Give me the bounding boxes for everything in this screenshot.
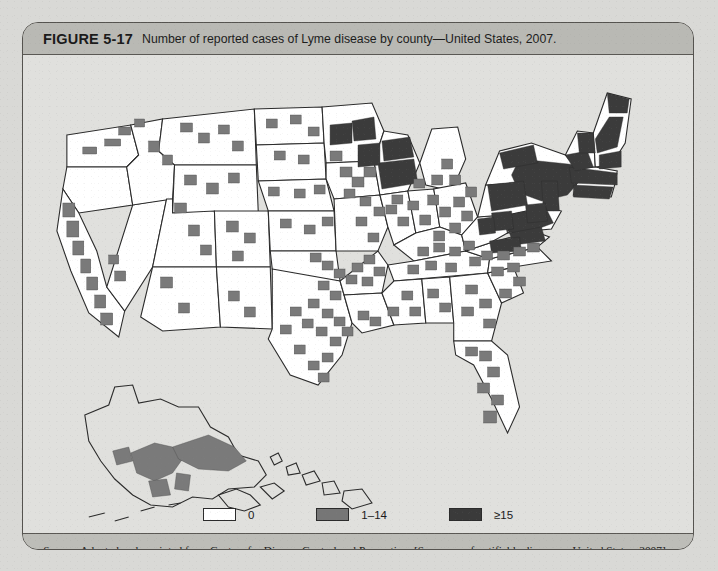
figure-title-band: FIGURE 5-17 Number of reported cases of …: [23, 23, 693, 55]
us-county-choropleth-map: .st { fill:#ffffff; stroke:#2b2b2b; stro…: [23, 55, 693, 533]
source-line-1: Adapted and reprinted from Centers for D…: [43, 544, 669, 550]
legend-swatch-high: [449, 508, 482, 521]
figure-screenshot: FIGURE 5-17 Number of reported cases of …: [0, 0, 718, 571]
figure-source-band: Source: Adapted and reprinted from Cente…: [23, 533, 693, 549]
map-legend: 0 1–14 ≥15: [23, 508, 693, 521]
legend-label-high: ≥15: [494, 509, 513, 521]
legend-item-high: ≥15: [449, 508, 513, 521]
legend-swatch-low: [316, 508, 349, 521]
figure-source-text: Source: Adapted and reprinted from Cente…: [43, 543, 673, 550]
legend-item-low: 1–14: [316, 508, 387, 521]
legend-item-zero: 0: [203, 508, 254, 521]
legend-label-zero: 0: [248, 509, 254, 521]
map-stage: .st { fill:#ffffff; stroke:#2b2b2b; stro…: [23, 55, 693, 533]
source-label: Source:: [43, 544, 78, 550]
map-panel: .st { fill:#ffffff; stroke:#2b2b2b; stro…: [23, 55, 693, 533]
legend-label-low: 1–14: [361, 509, 387, 521]
figure-number-label: FIGURE 5-17: [43, 31, 133, 47]
legend-swatch-zero: [203, 508, 236, 521]
figure-caption: Number of reported cases of Lyme disease…: [142, 32, 556, 46]
figure-frame: FIGURE 5-17 Number of reported cases of …: [22, 22, 694, 550]
